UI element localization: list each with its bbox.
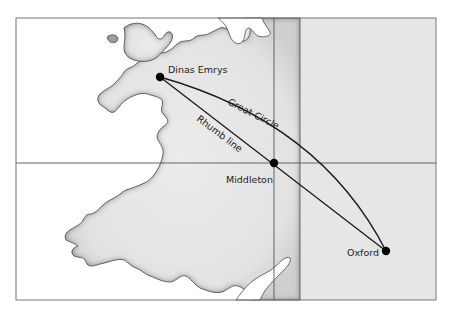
wales-landmass [65, 18, 300, 300]
middleton-label: Middleton [226, 174, 273, 185]
map-canvas: Dinas Emrys Middleton Oxford Great Circl… [0, 0, 450, 316]
middleton-marker [270, 159, 278, 167]
oxford-label: Oxford [347, 247, 379, 258]
dinas-emrys-label: Dinas Emrys [168, 64, 228, 75]
oxford-marker [382, 247, 390, 255]
dinas-emrys-marker [156, 73, 164, 81]
